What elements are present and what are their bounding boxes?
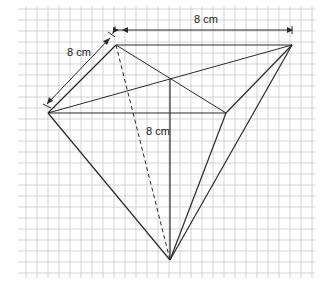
label-left-edge: 8 cm — [67, 46, 91, 58]
edge-CF — [170, 45, 292, 260]
diagonal-BD — [116, 45, 226, 113]
label-height: 8 cm — [146, 125, 170, 137]
edge-DF — [170, 113, 226, 260]
dimension-top — [113, 26, 294, 34]
pyramid-edges — [48, 45, 292, 260]
label-top-edge: 8 cm — [194, 13, 218, 25]
pyramid-diagram: 8 cm 8 cm 8 cm — [0, 0, 333, 298]
grid-paper — [18, 6, 315, 278]
